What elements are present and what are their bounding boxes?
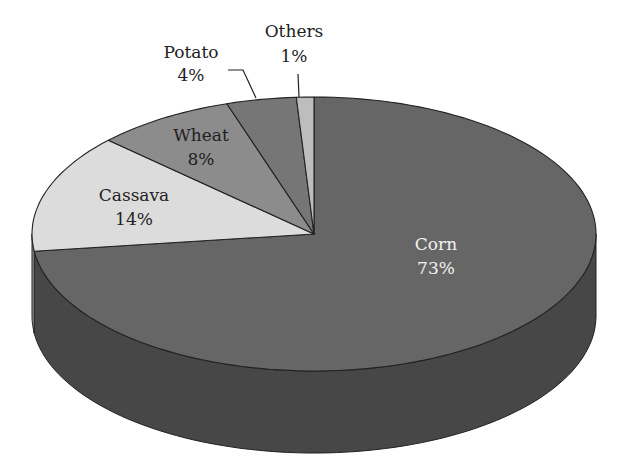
label-others-pct: 1% bbox=[281, 46, 308, 66]
pie-chart: Corn 73% Cassava 14% Wheat 8% Potato 4% … bbox=[0, 0, 625, 469]
label-others-name: Others bbox=[265, 21, 324, 41]
leader-line-others bbox=[298, 74, 299, 97]
leader-line-potato bbox=[228, 70, 256, 98]
leader-lines bbox=[228, 70, 299, 98]
label-potato-name: Potato bbox=[163, 42, 218, 62]
label-cassava-name: Cassava bbox=[99, 185, 169, 205]
label-wheat-pct: 8% bbox=[188, 149, 215, 169]
label-corn-pct: 73% bbox=[417, 258, 455, 278]
pie-top-faces bbox=[32, 97, 596, 371]
label-potato-pct: 4% bbox=[178, 65, 205, 85]
label-cassava-pct: 14% bbox=[115, 209, 153, 229]
label-corn-name: Corn bbox=[415, 234, 457, 254]
label-wheat-name: Wheat bbox=[173, 125, 229, 145]
